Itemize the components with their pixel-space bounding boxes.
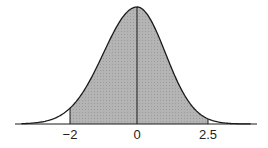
tick-label-2-5: 2.5	[199, 128, 217, 142]
shaded-area	[70, 7, 208, 124]
normal-curve-plot	[0, 0, 268, 148]
tick-label-neg2: −2	[63, 128, 78, 142]
tick-label-zero: 0	[133, 128, 140, 142]
